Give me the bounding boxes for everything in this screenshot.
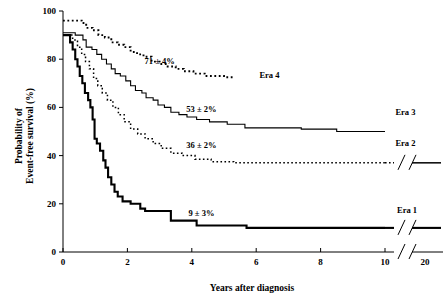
x-tick-label: 10 bbox=[381, 257, 391, 267]
curve-series-group bbox=[63, 21, 441, 228]
annotation-era-4: 71 ± 4% bbox=[145, 56, 175, 66]
x-axis: 024681020 bbox=[61, 248, 443, 267]
annotation-era-3: 53 ± 2% bbox=[186, 104, 216, 114]
x-axis-title: Years after diagnosis bbox=[210, 283, 295, 293]
series-label-era-3: Era 3 bbox=[395, 107, 415, 117]
annotation-era-1: 9 ± 3% bbox=[188, 208, 214, 218]
curve-era-4 bbox=[63, 21, 234, 78]
series-label-era-4: Era 4 bbox=[259, 70, 280, 80]
x-tick-label: 0 bbox=[61, 257, 66, 267]
y-tick-label: 40 bbox=[47, 151, 57, 161]
annotation-era-2: 36 ± 2% bbox=[186, 140, 216, 150]
y-axis: 020406080100 bbox=[43, 6, 64, 257]
curve-era-2 bbox=[63, 35, 385, 163]
x-tick-label: 6 bbox=[254, 257, 259, 267]
series-label-era-1: Era 1 bbox=[397, 205, 417, 215]
x-tick-label: 4 bbox=[190, 257, 195, 267]
y-tick-label: 20 bbox=[47, 199, 57, 209]
x-tick-label: 2 bbox=[125, 257, 130, 267]
y-axis-title-line1: Probability of bbox=[14, 107, 24, 164]
series-label-era-2: Era 2 bbox=[395, 138, 415, 148]
y-tick-label: 100 bbox=[43, 6, 57, 16]
chart-canvas: 020406080100 024681020 9 ± 3%Era 136 ± 2… bbox=[0, 0, 443, 304]
x-tick-label: 20 bbox=[421, 257, 431, 267]
y-axis-title-line2: Event-free survival (%) bbox=[25, 88, 36, 184]
annotations-group: 9 ± 3%Era 136 ± 2%Era 253 ± 2%Era 371 ± … bbox=[145, 56, 418, 218]
y-tick-label: 0 bbox=[52, 247, 57, 257]
survival-curve-figure: 020406080100 024681020 9 ± 3%Era 136 ± 2… bbox=[0, 0, 443, 304]
x-tick-label: 8 bbox=[318, 257, 323, 267]
y-tick-label: 60 bbox=[47, 102, 57, 112]
y-tick-label: 80 bbox=[47, 54, 57, 64]
curve-era-3 bbox=[63, 33, 385, 132]
